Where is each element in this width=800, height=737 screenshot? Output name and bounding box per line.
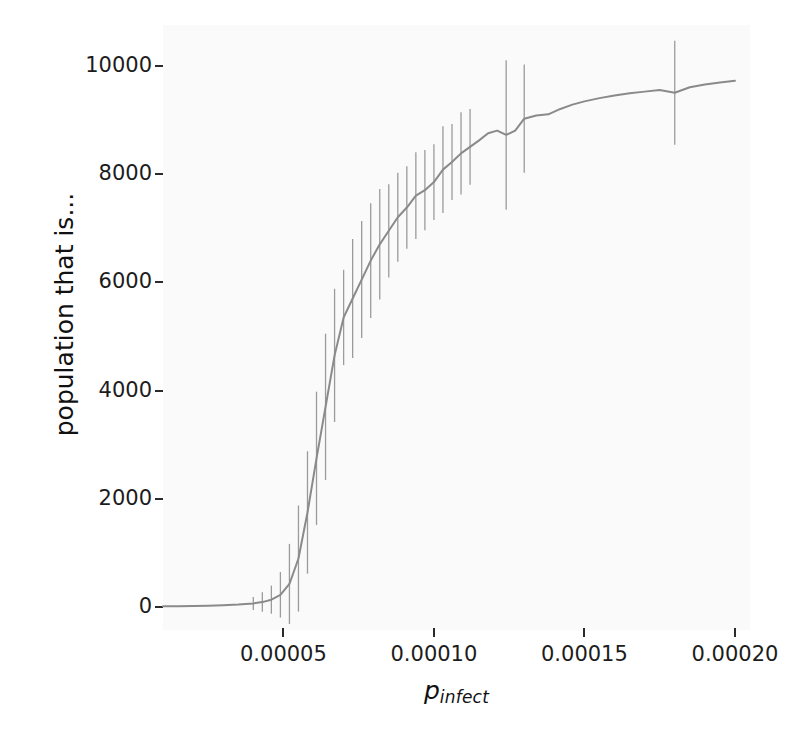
- y-axis-title: population that is...: [50, 55, 79, 575]
- figure-canvas: 0200040006000800010000 0.000050.000100.0…: [0, 0, 800, 737]
- x-axis-title: pinfect: [163, 676, 750, 707]
- chart-plot-area: [0, 0, 800, 737]
- x-axis-title-base: p: [424, 676, 440, 705]
- error-bars: [253, 41, 674, 624]
- x-axis-title-subscript: infect: [440, 687, 489, 707]
- series-line: [163, 81, 735, 606]
